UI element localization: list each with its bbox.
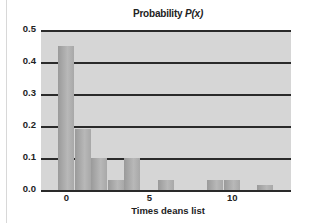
bar [124,158,140,190]
gridline [41,30,291,32]
bar [75,129,91,190]
y-tick-label: 0.5 [6,23,36,34]
gridline [41,126,291,128]
x-axis-label: Times deans list [0,205,336,216]
x-axis-line [41,190,291,192]
y-tick-label: 0.0 [6,183,36,194]
gridline [41,62,291,64]
bar [58,46,74,190]
x-tick-label: 5 [139,192,159,203]
y-tick-label: 0.1 [6,151,36,162]
bar [158,180,174,190]
bar [224,180,240,190]
bar [91,158,107,190]
x-tick-label: 0 [56,192,76,203]
bar [108,180,124,190]
bar [207,180,223,190]
y-tick-label: 0.3 [6,87,36,98]
gridline [41,94,291,96]
chart-title: Probability P(x) [0,8,336,19]
title-variable: P(x) [185,8,203,19]
y-tick-label: 0.2 [6,119,36,130]
y-tick-label: 0.4 [6,55,36,66]
title-text: Probability [133,8,185,19]
x-tick-label: 10 [222,192,242,203]
